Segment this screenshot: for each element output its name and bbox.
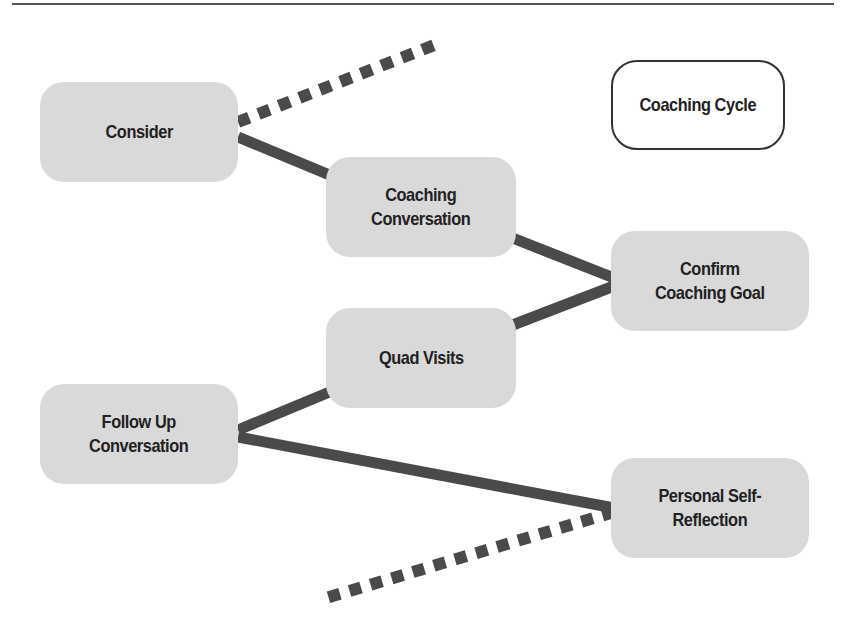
edge-self-reflection-to-bottom-dashed <box>326 512 614 598</box>
edge-confirm-goal-to-quad-visits <box>510 286 614 326</box>
node-consider: Consider <box>40 82 238 182</box>
node-label: Quad Visits <box>379 346 464 370</box>
node-label: Personal Self- Reflection <box>659 484 762 532</box>
node-label: Consider <box>105 120 172 144</box>
node-label: Coaching Conversation <box>371 183 470 231</box>
legend-coaching-cycle: Coaching Cycle <box>611 60 785 150</box>
node-follow-up-conversation: Follow Up Conversation <box>40 384 238 484</box>
node-confirm-coaching-goal: Confirm Coaching Goal <box>611 231 809 331</box>
edge-quad-visits-to-follow-up <box>238 391 332 430</box>
node-quad-visits: Quad Visits <box>326 308 516 408</box>
edge-follow-up-to-self-reflection <box>238 437 614 508</box>
edge-consider-to-coaching-conversation <box>238 137 332 176</box>
edge-consider-to-top-dashed <box>238 42 442 122</box>
node-coaching-conversation: Coaching Conversation <box>326 157 516 257</box>
node-personal-self-reflection: Personal Self- Reflection <box>611 458 809 558</box>
legend-label: Coaching Cycle <box>640 94 757 116</box>
node-label: Confirm Coaching Goal <box>655 257 765 305</box>
edge-coaching-conversation-to-confirm-goal <box>510 237 614 278</box>
node-label: Follow Up Conversation <box>89 410 188 458</box>
